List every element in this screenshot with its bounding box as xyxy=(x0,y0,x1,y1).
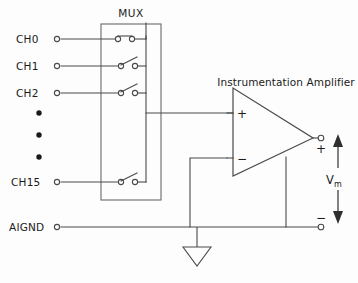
circuit-diagram-canvas: CH0 CH1 CH2 CH15 AIGND MUX Instrumentati… xyxy=(0,0,358,283)
vm-arrow-up-head-icon xyxy=(333,134,343,147)
vm-label-subscript: m xyxy=(334,180,342,189)
mux-box xyxy=(101,24,161,200)
switch-throw-ch1[interactable] xyxy=(132,63,137,68)
output-negative-sign: − xyxy=(316,211,326,225)
ellipsis-dot-1 xyxy=(36,110,41,115)
switch-throw-ch0[interactable] xyxy=(129,36,134,41)
mux-label: MUX xyxy=(118,7,144,19)
channel-label-ch15: CH15 xyxy=(11,176,40,188)
amplifier-label: Instrumentation Amplifier xyxy=(217,76,355,88)
switch-throw-ch2[interactable] xyxy=(132,90,137,95)
schematic-svg: CH0 CH1 CH2 CH15 AIGND MUX Instrumentati… xyxy=(0,0,358,283)
terminal-ch2[interactable] xyxy=(54,90,59,95)
terminal-ch0[interactable] xyxy=(54,36,59,41)
amplifier-reference-path xyxy=(190,158,227,227)
terminal-ch15[interactable] xyxy=(54,179,59,184)
ellipsis-dot-3 xyxy=(36,154,41,159)
terminal-output-negative[interactable] xyxy=(318,224,324,230)
switch-throw-ch15[interactable] xyxy=(132,179,137,184)
terminal-ch1[interactable] xyxy=(54,63,59,68)
channel-label-ch1: CH1 xyxy=(16,60,39,72)
ellipsis-dot-2 xyxy=(36,132,41,137)
terminal-aignd[interactable] xyxy=(54,224,59,229)
output-positive-sign: + xyxy=(316,142,326,156)
channel-label-ch2: CH2 xyxy=(16,87,39,99)
switch-pole-ch0[interactable] xyxy=(115,36,120,41)
channel-label-ch0: CH0 xyxy=(16,33,39,45)
vm-label: V xyxy=(326,173,334,187)
vm-arrow-down-head-icon xyxy=(333,211,343,224)
terminal-output-positive[interactable] xyxy=(318,135,324,141)
aignd-label: AIGND xyxy=(9,221,44,233)
amplifier-minus-sign: − xyxy=(237,152,247,166)
amplifier-plus-sign: + xyxy=(237,107,247,121)
ground-symbol-icon xyxy=(183,247,211,266)
